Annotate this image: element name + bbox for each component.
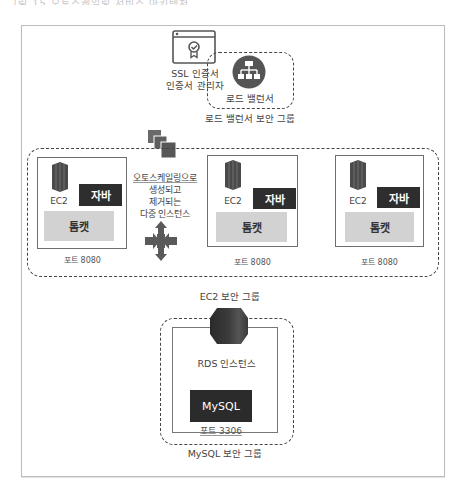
rds-database-icon — [209, 306, 249, 346]
ec2-label: EC2 — [343, 196, 373, 206]
mysql-engine-box: MySQL — [190, 390, 252, 422]
autoscaling-text-line-1: 오토스케일링으로 — [128, 172, 202, 184]
load-balancer-label: 로드 밸런서 — [220, 93, 280, 105]
load-balancer-icon — [232, 55, 266, 89]
ec2-label: EC2 — [44, 196, 74, 206]
ec2-security-group-label: EC2 보안 그룹 — [190, 291, 270, 303]
java-runtime-box: 자바 — [377, 187, 420, 208]
autoscaling-text-line-3: 제거되는 — [128, 196, 202, 208]
tomcat-server-box: 톰캣 — [345, 212, 414, 242]
port-label: 포트 8080 — [230, 256, 275, 267]
ec2-server-icon — [222, 160, 244, 190]
ec2-label: EC2 — [218, 196, 248, 206]
cropped-caption: 그림 15 오토스케일링 서비스 아키텍처 — [8, 0, 223, 5]
mysql-port-label: 포트 3306 — [195, 424, 247, 437]
java-runtime-box: 자바 — [79, 184, 122, 206]
scale-arrows-icon — [145, 221, 177, 261]
autoscaling-text-line-2: 생성되고 — [128, 184, 202, 196]
ec2-server-icon — [347, 160, 369, 190]
tomcat-server-box: 톰캣 — [44, 211, 114, 241]
ec2-server-icon — [49, 162, 71, 192]
rds-instance-label: RDS 인스턴스 — [192, 358, 262, 370]
port-label: 포트 8080 — [60, 254, 105, 265]
java-runtime-box: 자바 — [253, 188, 296, 209]
autoscaling-description: 오토스케일링으로 생성되고 제거되는 다중 인스턴스 — [128, 172, 202, 220]
mysql-security-group-label: MySQL 보안 그룹 — [180, 448, 270, 460]
autoscaling-text-line-4: 다중 인스턴스 — [128, 208, 202, 220]
port-label: 포트 8080 — [357, 256, 402, 267]
tomcat-server-box: 톰캣 — [216, 212, 287, 242]
load-balancer-group-label: 로드 밸런서 보안 그룹 — [200, 113, 300, 125]
